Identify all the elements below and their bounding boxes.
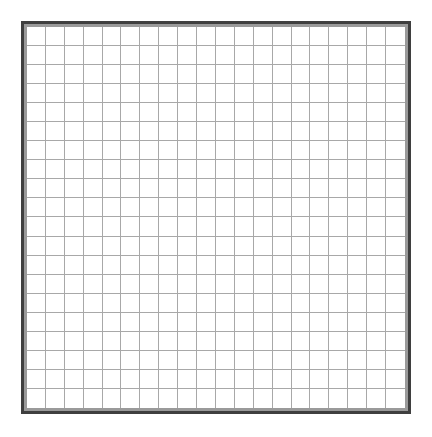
grid-cell xyxy=(103,84,122,103)
grid-cell xyxy=(348,198,367,217)
grid-cell xyxy=(386,198,405,217)
grid-cell xyxy=(46,65,65,84)
grid-cell xyxy=(27,27,46,46)
grid-cell xyxy=(140,389,159,408)
grid-cell xyxy=(367,84,386,103)
grid-cell xyxy=(386,46,405,65)
grid-cell xyxy=(103,198,122,217)
grid-cell xyxy=(159,256,178,275)
grid-cell xyxy=(292,294,311,313)
grid-cell xyxy=(140,122,159,141)
grid-cell xyxy=(121,179,140,198)
grid-cell xyxy=(254,179,273,198)
grid-cell xyxy=(197,217,216,236)
grid-cell xyxy=(292,65,311,84)
grid-cell xyxy=(273,237,292,256)
grid-cell xyxy=(27,351,46,370)
grid-cell xyxy=(159,370,178,389)
grid-cell xyxy=(329,370,348,389)
grid-cell xyxy=(121,389,140,408)
grid-cell xyxy=(292,351,311,370)
grid-cell xyxy=(65,198,84,217)
grid-cell xyxy=(178,141,197,160)
grid-cell xyxy=(310,160,329,179)
grid-cell xyxy=(367,141,386,160)
grid-cell xyxy=(65,217,84,236)
grid-cell xyxy=(292,313,311,332)
grid-cell xyxy=(121,84,140,103)
grid-cell xyxy=(367,27,386,46)
grid-cell xyxy=(329,313,348,332)
grid-cell xyxy=(178,351,197,370)
grid-cell xyxy=(235,275,254,294)
grid-cell xyxy=(367,46,386,65)
grid-cell xyxy=(386,103,405,122)
grid-cell xyxy=(273,370,292,389)
grid-cell xyxy=(65,256,84,275)
grid-cell xyxy=(367,275,386,294)
grid-cell xyxy=(27,370,46,389)
grid-cell xyxy=(178,313,197,332)
grid-cell xyxy=(178,160,197,179)
grid-cell xyxy=(103,351,122,370)
grid-cell xyxy=(254,389,273,408)
grid-cell xyxy=(27,122,46,141)
grid-cell xyxy=(121,65,140,84)
grid-cell xyxy=(121,141,140,160)
grid-cell xyxy=(235,237,254,256)
grid-cell xyxy=(46,275,65,294)
grid-cell xyxy=(178,122,197,141)
grid-cell xyxy=(216,237,235,256)
grid-cell xyxy=(103,217,122,236)
grid-cell xyxy=(254,65,273,84)
grid-cell xyxy=(121,313,140,332)
grid-cell xyxy=(329,46,348,65)
grid-cell xyxy=(197,198,216,217)
grid-cell xyxy=(159,179,178,198)
grid-cell xyxy=(292,332,311,351)
grid-cell xyxy=(197,370,216,389)
grid-cell xyxy=(140,179,159,198)
grid-cell xyxy=(292,141,311,160)
grid-inner-border xyxy=(24,24,408,411)
grid-cell xyxy=(310,27,329,46)
grid-cell xyxy=(159,294,178,313)
grid-cell xyxy=(46,198,65,217)
grid-cell xyxy=(178,256,197,275)
grid-cell xyxy=(103,103,122,122)
grid-cell xyxy=(27,65,46,84)
grid-cell xyxy=(178,84,197,103)
grid-cell xyxy=(178,198,197,217)
grid-cell xyxy=(292,198,311,217)
grid-cell xyxy=(310,332,329,351)
grid-cell xyxy=(197,160,216,179)
grid-cell xyxy=(292,84,311,103)
grid-cell xyxy=(197,27,216,46)
grid-cell xyxy=(84,370,103,389)
grid-cell xyxy=(140,217,159,236)
grid-cell xyxy=(27,294,46,313)
grid-cell xyxy=(216,313,235,332)
grid-cell xyxy=(46,256,65,275)
grid-cell xyxy=(159,237,178,256)
grid-cell xyxy=(386,313,405,332)
grid-cell xyxy=(216,389,235,408)
grid-cell xyxy=(216,294,235,313)
grid-cell xyxy=(367,389,386,408)
grid-cell xyxy=(103,275,122,294)
grid-cell xyxy=(386,27,405,46)
grid-cell xyxy=(386,389,405,408)
grid-cell xyxy=(46,217,65,236)
grid-cell xyxy=(367,294,386,313)
grid-cell xyxy=(178,294,197,313)
grid-cell xyxy=(65,370,84,389)
grid-cell xyxy=(216,217,235,236)
grid-cell xyxy=(65,65,84,84)
grid-cell xyxy=(386,370,405,389)
grid-cell xyxy=(235,179,254,198)
grid-cell xyxy=(254,122,273,141)
grid-cell xyxy=(348,275,367,294)
grid-cell xyxy=(178,179,197,198)
grid-cell xyxy=(254,84,273,103)
grid-cell xyxy=(292,27,311,46)
